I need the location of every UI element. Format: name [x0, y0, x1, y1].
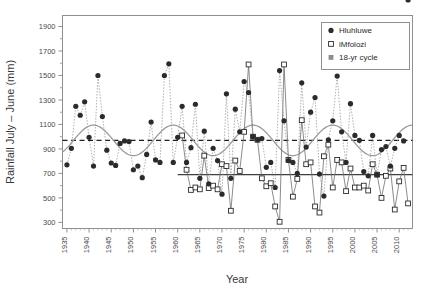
data-point-hluhluwe — [299, 80, 304, 85]
data-point-hluhluwe — [100, 114, 105, 119]
data-point-hluhluwe — [184, 160, 189, 165]
data-point-imfolozi — [392, 207, 397, 212]
y-tick-label: 1300 — [39, 96, 56, 105]
data-point-hluhluwe — [162, 73, 167, 78]
y-tick-label: 500 — [43, 194, 56, 203]
x-tick-label: 1975 — [237, 237, 246, 254]
data-point-hluhluwe — [273, 185, 278, 190]
data-point-hluhluwe — [166, 61, 171, 66]
data-point-imfolozi — [246, 62, 251, 67]
data-point-imfolozi — [317, 210, 322, 215]
data-point-imfolozi — [299, 118, 304, 123]
data-point-imfolozi — [379, 195, 384, 200]
x-tick-label: 1980 — [259, 237, 268, 254]
data-point-hluhluwe — [91, 163, 96, 168]
data-point-hluhluwe — [131, 167, 136, 172]
data-point-hluhluwe — [268, 160, 273, 165]
y-tick-label: 1900 — [39, 22, 56, 31]
data-point-hluhluwe — [109, 160, 114, 165]
x-tick-label: 1990 — [304, 237, 313, 254]
data-point-hluhluwe — [339, 129, 344, 134]
y-tick-label: 900 — [43, 145, 56, 154]
data-point-imfolozi — [344, 189, 349, 194]
data-point-hluhluwe — [122, 138, 127, 143]
data-point-imfolozi — [228, 208, 233, 213]
data-point-hluhluwe — [180, 104, 185, 109]
data-point-hluhluwe — [242, 79, 247, 84]
data-point-hluhluwe — [388, 163, 393, 168]
data-point-imfolozi — [348, 166, 353, 171]
y-tick-label: 1100 — [39, 120, 55, 129]
x-tick-label: 1985 — [281, 237, 290, 254]
data-point-imfolozi — [361, 183, 366, 188]
data-point-hluhluwe — [317, 171, 322, 176]
data-point-hluhluwe — [281, 118, 286, 123]
y-tick-label: 1700 — [39, 47, 56, 56]
data-point-hluhluwe — [246, 90, 251, 95]
x-tick-label: 2010 — [392, 237, 401, 254]
data-point-hluhluwe — [343, 160, 348, 165]
data-point-hluhluwe — [171, 160, 176, 165]
data-point-hluhluwe — [193, 102, 198, 107]
data-point-hluhluwe — [330, 118, 335, 123]
data-point-imfolozi — [184, 167, 189, 172]
data-point-imfolozi — [401, 166, 406, 171]
data-point-hluhluwe — [295, 171, 300, 176]
data-point-imfolozi — [313, 204, 318, 209]
data-point-imfolozi — [397, 179, 402, 184]
data-point-imfolozi — [197, 187, 202, 192]
data-point-hluhluwe — [188, 145, 193, 150]
data-point-hluhluwe — [335, 73, 340, 78]
data-point-hluhluwe — [397, 133, 402, 138]
data-point-hluhluwe — [352, 133, 357, 138]
data-point-hluhluwe — [215, 158, 220, 163]
data-point-imfolozi — [277, 219, 282, 224]
data-point-hluhluwe — [264, 165, 269, 170]
x-tick-label: 1995 — [326, 237, 335, 254]
data-point-hluhluwe — [366, 173, 371, 178]
data-point-imfolozi — [366, 188, 371, 193]
data-point-imfolozi — [242, 129, 247, 134]
y-axis-title: Rainfall July – June (mm) — [4, 60, 16, 184]
data-point-hluhluwe — [95, 73, 100, 78]
data-point-hluhluwe — [259, 136, 264, 141]
x-tick-label: 1945 — [104, 237, 113, 254]
data-point-hluhluwe — [392, 146, 397, 151]
data-point-hluhluwe — [374, 172, 379, 177]
data-point-hluhluwe — [219, 192, 224, 197]
data-point-hluhluwe — [228, 176, 233, 181]
data-point-hluhluwe — [69, 146, 74, 151]
data-point-hluhluwe — [308, 110, 313, 115]
data-point-hluhluwe — [64, 162, 69, 167]
rainfall-time-series-chart: 30050070090011001300150017001900 1935194… — [0, 0, 429, 290]
data-point-imfolozi — [326, 142, 331, 147]
legend-marker-filled-circle-icon — [328, 28, 333, 33]
data-point-hluhluwe — [348, 101, 353, 106]
data-point-hluhluwe — [113, 163, 118, 168]
data-point-imfolozi — [233, 158, 238, 163]
data-point-imfolozi — [215, 187, 220, 192]
x-tick-label: 2005 — [370, 237, 379, 254]
x-tick-label: 1955 — [149, 237, 158, 254]
data-point-hluhluwe — [405, 0, 410, 3]
data-point-hluhluwe — [361, 169, 366, 174]
data-point-imfolozi — [268, 181, 273, 186]
legend-label-imfolozi: iMfolozi — [339, 40, 366, 49]
data-point-imfolozi — [290, 194, 295, 199]
x-axis-title: Year — [226, 273, 249, 285]
data-point-hluhluwe — [211, 146, 216, 151]
y-tick-label: 1500 — [39, 71, 56, 80]
data-point-hluhluwe — [401, 138, 406, 143]
data-point-hluhluwe — [82, 99, 87, 104]
chart-canvas: 30050070090011001300150017001900 1935194… — [0, 0, 429, 290]
data-point-hluhluwe — [153, 157, 158, 162]
data-point-hluhluwe — [357, 138, 362, 143]
x-tick-label: 1970 — [215, 237, 224, 254]
data-point-hluhluwe — [277, 68, 282, 73]
data-point-hluhluwe — [135, 163, 140, 168]
data-point-imfolozi — [180, 133, 185, 138]
data-point-hluhluwe — [321, 193, 326, 198]
x-tick-label: 1965 — [193, 237, 202, 254]
data-point-hluhluwe — [157, 160, 162, 165]
data-point-hluhluwe — [370, 133, 375, 138]
